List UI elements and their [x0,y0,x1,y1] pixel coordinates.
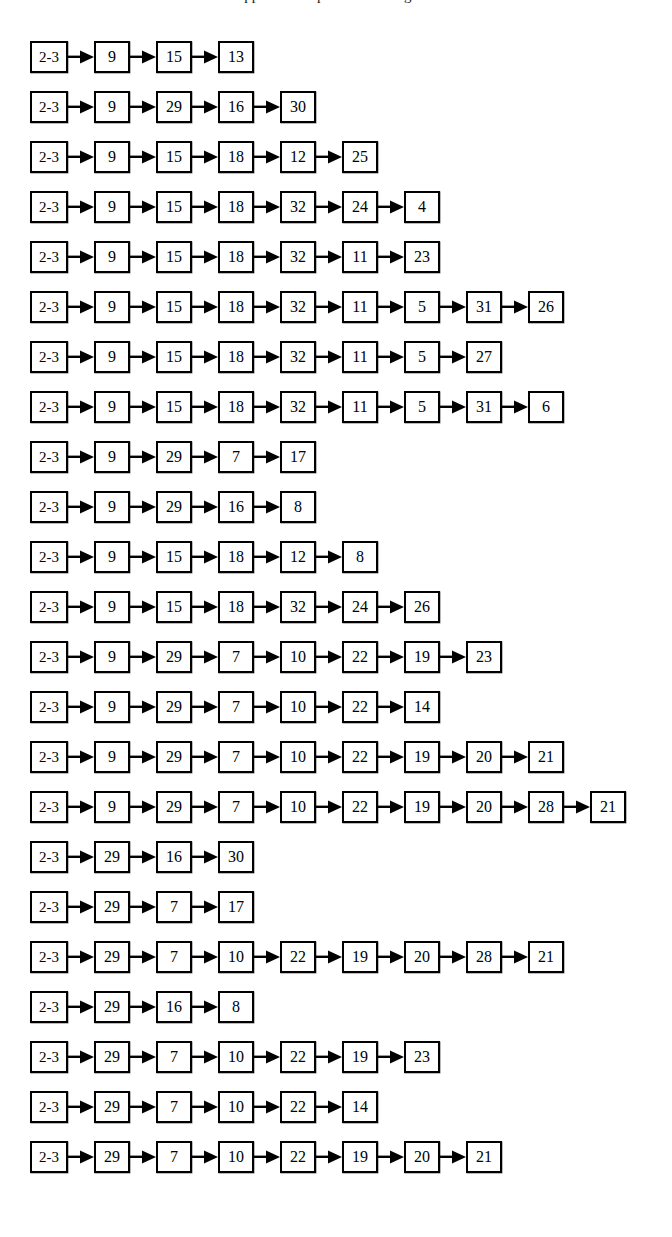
right-arrow-icon [502,400,528,414]
chain-node: 15 [156,191,192,223]
right-arrow-icon [68,250,94,264]
right-arrow-icon [68,600,94,614]
chain-root-node: 2-3 [30,691,68,723]
right-arrow-icon [130,1000,156,1014]
right-arrow-icon [192,100,218,114]
chain-row: 2-391518128 [0,532,672,582]
chain-node: 9 [94,641,130,673]
chain-row: 2-39297102214 [0,682,672,732]
right-arrow-icon [68,1100,94,1114]
chain-row: 2-32971022192021 [0,1132,672,1182]
chain-node: 7 [156,1141,192,1173]
right-arrow-icon [254,300,280,314]
chain-node: 32 [280,291,316,323]
chain-node: 29 [156,641,192,673]
chain-node: 27 [466,341,502,373]
right-arrow-icon [130,850,156,864]
chain-row: 2-3929710221923 [0,632,672,682]
right-arrow-icon [68,850,94,864]
right-arrow-icon [130,800,156,814]
chain-node: 19 [342,1041,378,1073]
right-arrow-icon [192,350,218,364]
right-arrow-icon [192,500,218,514]
chain-node: 10 [218,1141,254,1173]
chain-row: 2-3915181225 [0,132,672,182]
chain-node: 15 [156,141,192,173]
right-arrow-icon [192,900,218,914]
right-arrow-icon [130,650,156,664]
chain-node: 10 [280,641,316,673]
right-arrow-icon [68,900,94,914]
chain-node: 8 [218,991,254,1023]
chain-node: 8 [342,541,378,573]
chain-node: 9 [94,491,130,523]
chain-node: 16 [156,841,192,873]
right-arrow-icon [254,1050,280,1064]
chain-node: 10 [280,741,316,773]
chain-node: 21 [528,941,564,973]
chain-row: 2-39291630 [0,82,672,132]
chain-node: 12 [280,541,316,573]
right-arrow-icon [68,150,94,164]
chain-row: 2-391518322426 [0,582,672,632]
chain-root-node: 2-3 [30,541,68,573]
chain-node: 9 [94,341,130,373]
right-arrow-icon [254,100,280,114]
chain-node: 7 [156,1091,192,1123]
chain-node: 9 [94,141,130,173]
chain-row: 2-3929717 [0,432,672,482]
right-arrow-icon [192,400,218,414]
chain-row: 2-3297102219202821 [0,932,672,982]
chain-node: 9 [94,441,130,473]
chain-node: 13 [218,41,254,73]
chain-node: 18 [218,591,254,623]
right-arrow-icon [68,1150,94,1164]
chain-node: 24 [342,191,378,223]
right-arrow-icon [192,150,218,164]
chain-node: 29 [156,791,192,823]
chain-node: 17 [218,891,254,923]
right-arrow-icon [316,600,342,614]
right-arrow-icon [378,350,404,364]
chain-node: 30 [280,91,316,123]
chain-row: 2-39297102219202821 [0,782,672,832]
right-arrow-icon [192,1000,218,1014]
chain-node: 22 [280,1091,316,1123]
chain-root-node: 2-3 [30,641,68,673]
chain-node: 12 [280,141,316,173]
right-arrow-icon [440,350,466,364]
right-arrow-icon [192,450,218,464]
right-arrow-icon [130,950,156,964]
chain-node: 14 [404,691,440,723]
right-arrow-icon [316,750,342,764]
right-arrow-icon [502,950,528,964]
chain-node: 14 [342,1091,378,1123]
right-arrow-icon [68,300,94,314]
chain-node: 24 [342,591,378,623]
right-arrow-icon [192,200,218,214]
chain-root-node: 2-3 [30,491,68,523]
right-arrow-icon [378,300,404,314]
chain-node: 29 [94,1041,130,1073]
right-arrow-icon [564,800,590,814]
right-arrow-icon [130,400,156,414]
chain-root-node: 2-3 [30,1041,68,1073]
chain-root-node: 2-3 [30,1141,68,1173]
chain-root-node: 2-3 [30,141,68,173]
chain-node: 18 [218,541,254,573]
chain-node: 7 [156,891,192,923]
right-arrow-icon [68,800,94,814]
chain-node: 29 [156,741,192,773]
right-arrow-icon [316,250,342,264]
right-arrow-icon [254,800,280,814]
chain-node: 11 [342,391,378,423]
chain-node: 29 [94,891,130,923]
chain-row: 2-392971022192021 [0,732,672,782]
chain-root-node: 2-3 [30,391,68,423]
right-arrow-icon [316,550,342,564]
right-arrow-icon [378,1050,404,1064]
right-arrow-icon [68,1050,94,1064]
chain-root-node: 2-3 [30,291,68,323]
chain-node: 29 [156,691,192,723]
right-arrow-icon [378,750,404,764]
